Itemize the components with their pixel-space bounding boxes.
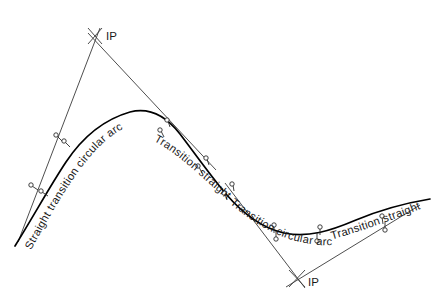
alignment-diagram: IP IP Straight transition circular arc T…: [0, 0, 435, 303]
station-marker: [29, 183, 38, 190]
segment-label-4: Transition straight: [329, 199, 422, 241]
tangent-right-upper: [88, 33, 216, 170]
station-marker: [204, 156, 209, 165]
station-marker: [62, 139, 70, 147]
segment-label-3: Transition circular arc: [228, 196, 332, 248]
tangent-left-upper: [18, 28, 100, 242]
segment-label-1: Straight transition circular arc: [22, 120, 124, 251]
ip-label-bottom: IP: [308, 276, 319, 288]
alignment-canvas: IP IP Straight transition circular arc T…: [0, 0, 435, 303]
ip-marker-bottom: [289, 270, 305, 287]
segment-label-3-text: Transition circular arc: [228, 196, 332, 248]
segment-label-2: Transition straight: [153, 132, 235, 202]
ip-label-top: IP: [106, 30, 117, 42]
segment-label-4-text: Transition straight: [329, 199, 422, 241]
station-marker: [54, 133, 62, 141]
segment-label-1-text: Straight transition circular arc: [22, 120, 124, 251]
segment-label-2-text: Transition straight: [153, 132, 235, 202]
